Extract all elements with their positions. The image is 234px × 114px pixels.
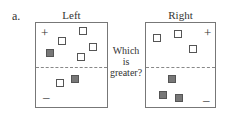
plus-sign: + bbox=[41, 26, 48, 39]
filled-square bbox=[175, 94, 183, 102]
filled-square bbox=[159, 91, 167, 99]
left-panel-title: Left bbox=[35, 9, 108, 21]
plus-sign: + bbox=[204, 26, 211, 39]
hollow-square bbox=[56, 79, 64, 87]
filled-square bbox=[71, 75, 79, 83]
question-line-3: greater? bbox=[106, 67, 146, 78]
filled-square bbox=[168, 75, 176, 83]
hollow-square bbox=[89, 43, 97, 51]
question-text: Which is greater? bbox=[106, 45, 146, 78]
right-panel-title: Right bbox=[145, 9, 216, 21]
hollow-square bbox=[174, 30, 182, 38]
minus-sign: – bbox=[203, 93, 210, 106]
right-panel: + – bbox=[145, 22, 216, 108]
hollow-square bbox=[77, 53, 85, 61]
hollow-square bbox=[153, 34, 161, 42]
minus-sign: – bbox=[43, 90, 50, 103]
filled-square bbox=[46, 49, 54, 57]
dashed-divider bbox=[36, 67, 107, 68]
left-panel: + – bbox=[35, 22, 108, 108]
question-line-2: is bbox=[106, 56, 146, 67]
dashed-divider bbox=[146, 67, 215, 68]
question-line-1: Which bbox=[106, 45, 146, 56]
figure-label: a. bbox=[12, 9, 20, 24]
hollow-square bbox=[189, 45, 197, 53]
hollow-square bbox=[79, 27, 87, 35]
hollow-square bbox=[58, 37, 66, 45]
